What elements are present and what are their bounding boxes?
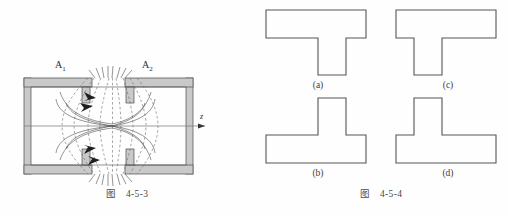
figure-page: A1 A2 z (0, 0, 508, 216)
z-axis-arrowhead (198, 123, 205, 128)
caption-right-prefix: 图 (360, 189, 370, 199)
figure-left-caption: 图4-5-3 (0, 186, 254, 200)
shape-d-outline (396, 98, 496, 163)
shape-d-label: (d) (428, 168, 468, 178)
electrode-a2-top-plate (125, 78, 193, 87)
shape-b-label: (b) (298, 168, 338, 178)
figure-right-caption: 图4-5-4 (254, 186, 508, 200)
electrode-a2-bottom-tip (126, 149, 134, 165)
electrode-a2-bottom-plate (125, 165, 193, 174)
shape-b-outline (266, 98, 366, 163)
electrode-a1-top-plate (24, 78, 92, 87)
shape-d-drawing (388, 90, 508, 172)
figure-4-5-4: (a) (c) (b) (d) 图4-5-4 (254, 0, 508, 216)
shape-a-label: (a) (298, 80, 338, 90)
shape-b-drawing (258, 90, 378, 172)
shape-c-outline (396, 10, 496, 75)
electrostatic-lens-drawing (0, 0, 254, 186)
figure-4-5-3: A1 A2 z (0, 0, 254, 216)
shape-c-label: (c) (428, 80, 468, 90)
caption-right-number: 4-5-4 (380, 189, 403, 199)
shape-c-drawing (388, 2, 508, 84)
shape-a-drawing (258, 2, 378, 84)
shape-a-outline (266, 10, 366, 75)
electrode-a2-top-tip (126, 87, 134, 103)
electrode-a1-bottom-plate (24, 165, 92, 174)
caption-left-number: 4-5-3 (126, 189, 149, 199)
caption-left-prefix: 图 (106, 189, 116, 199)
